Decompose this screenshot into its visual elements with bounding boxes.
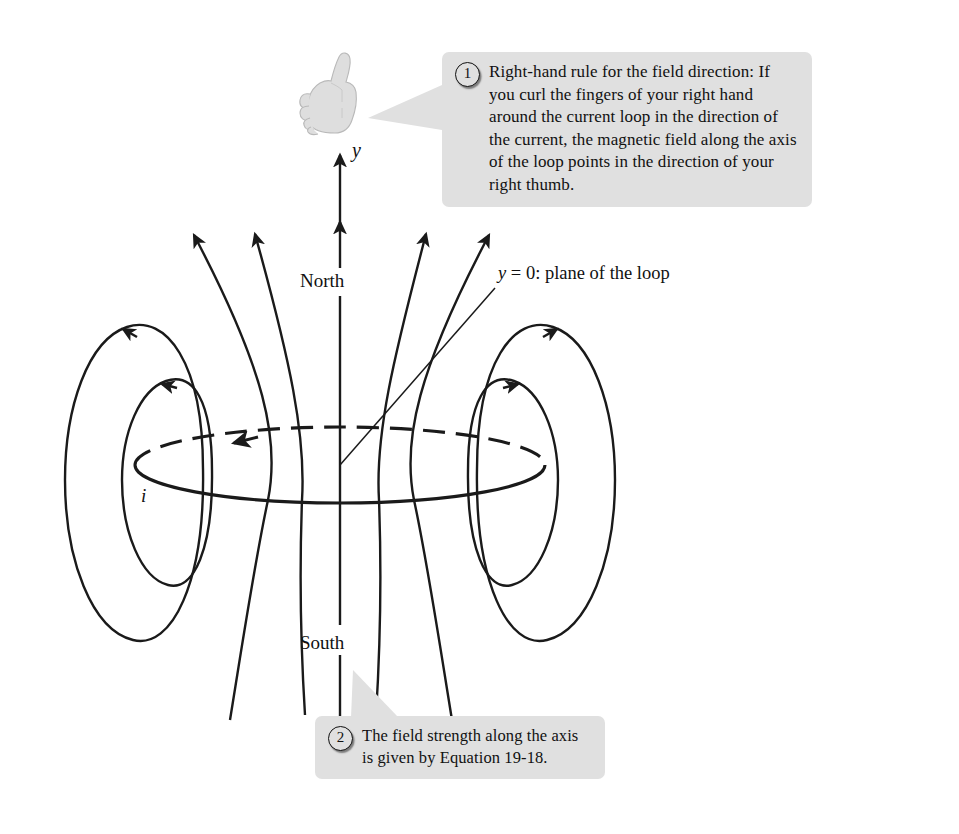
closed-field-line-left-outer bbox=[65, 325, 203, 641]
open-field-line-left-outer bbox=[194, 235, 272, 720]
open-field-line-left-inner bbox=[255, 234, 305, 715]
open-field-lines-right bbox=[376, 234, 489, 720]
callout-1-badge: 1 bbox=[455, 62, 480, 87]
callout-right-hand-rule: 1 Right-hand rule for the field directio… bbox=[442, 52, 812, 207]
callout-field-strength: 2 The field strength along the axis is g… bbox=[315, 716, 605, 779]
closed-field-line-right-outer-arrow bbox=[543, 329, 557, 337]
closed-field-lines-right bbox=[468, 325, 615, 641]
closed-field-line-left-outer-arrow bbox=[123, 329, 137, 337]
callout-1-text: Right-hand rule for the field direction:… bbox=[489, 61, 798, 197]
magnetic-field-figure: y North South i y = 0: plane of the loop… bbox=[0, 0, 959, 834]
callout-2-text: The field strength along the axis is giv… bbox=[362, 725, 591, 769]
closed-field-line-right-outer bbox=[477, 325, 615, 641]
open-field-line-right-inner bbox=[376, 234, 426, 715]
callout-1-pointer bbox=[368, 85, 442, 130]
thumbs-up-right-hand-icon bbox=[297, 50, 369, 136]
plane-annotation-rest: = 0: plane of the loop bbox=[506, 263, 670, 283]
south-pole-label: South bbox=[300, 632, 344, 654]
current-label: i bbox=[141, 485, 146, 507]
closed-field-line-right-inner-arrow bbox=[503, 384, 518, 388]
closed-field-line-left-inner-arrow bbox=[162, 384, 177, 388]
y-axis-label: y bbox=[352, 139, 361, 162]
closed-field-lines-left bbox=[65, 325, 212, 641]
current-direction-arrow bbox=[234, 437, 258, 443]
callout-2-badge: 2 bbox=[328, 726, 353, 751]
plane-leader-line bbox=[340, 288, 495, 465]
plane-annotation-label: y = 0: plane of the loop bbox=[498, 263, 670, 284]
plane-annotation-variable: y bbox=[498, 263, 506, 283]
north-pole-label: North bbox=[300, 270, 344, 292]
open-field-lines-left bbox=[194, 234, 305, 720]
